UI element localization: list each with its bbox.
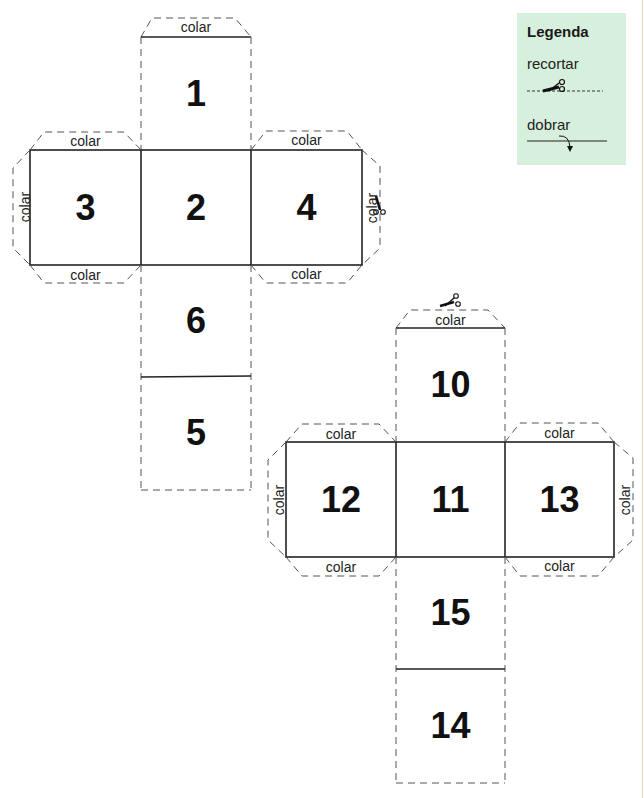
face-4: 4 <box>251 150 362 265</box>
cube-nets-worksheet: Legenda recortar dobrar .solid { stroke:… <box>0 0 644 798</box>
tab-label-top-10: colar <box>396 312 505 328</box>
face-number: 13 <box>539 479 579 521</box>
tab-label-top-13: colar <box>505 425 614 441</box>
face-3: 3 <box>30 150 141 265</box>
tab-label-right-13: colar <box>617 470 633 530</box>
face-11: 11 <box>396 442 505 557</box>
tab-label-bottom-12: colar <box>286 559 396 575</box>
tab-label-top-1: colar <box>141 19 251 35</box>
tab-label-bottom-13: colar <box>505 558 614 574</box>
face-number: 1 <box>186 73 206 115</box>
face-12: 12 <box>286 442 396 557</box>
face-number: 12 <box>321 479 361 521</box>
scissors-icon <box>440 294 460 307</box>
face-number: 2 <box>186 187 206 229</box>
face-1: 1 <box>141 37 251 150</box>
tab-label-top-12: colar <box>286 426 396 442</box>
face-number: 4 <box>296 187 316 229</box>
face-6: 6 <box>141 265 251 376</box>
face-15: 15 <box>396 557 505 669</box>
face-number: 5 <box>186 412 206 454</box>
face-10: 10 <box>396 328 505 442</box>
tab-label-top-4: colar <box>251 132 362 148</box>
tab-label-left-12: colar <box>271 470 287 530</box>
face-14: 14 <box>396 669 505 783</box>
face-number: 15 <box>430 592 470 634</box>
tab-label-bottom-4: colar <box>251 266 362 282</box>
face-number: 10 <box>430 364 470 406</box>
tab-label-top-3: colar <box>30 133 141 149</box>
nets-drawing: .solid { stroke:#222; stroke-width:1.6; … <box>0 0 644 798</box>
face-number: 3 <box>75 187 95 229</box>
face-number: 6 <box>186 300 206 342</box>
tab-label-right-4: colar <box>364 178 380 238</box>
face-2: 2 <box>141 150 251 265</box>
tab-label-bottom-3: colar <box>30 267 141 283</box>
face-number: 14 <box>430 705 470 747</box>
face-5: 5 <box>141 376 251 490</box>
face-number: 11 <box>431 479 469 521</box>
face-13: 13 <box>505 442 614 557</box>
tab-label-left-3: colar <box>17 177 33 237</box>
